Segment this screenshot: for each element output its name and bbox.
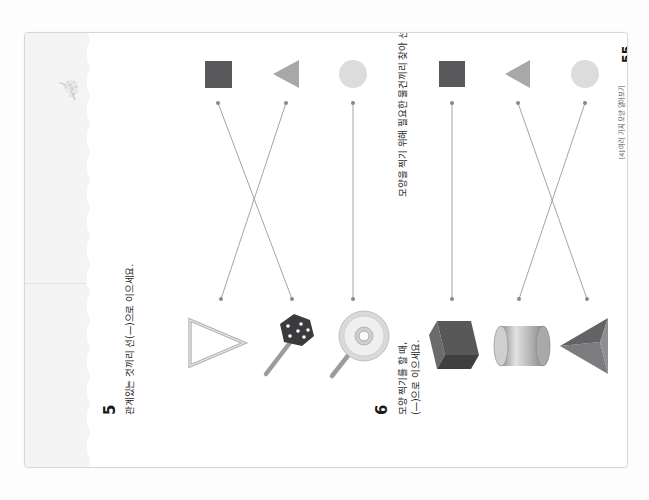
problem-6-instruction-line1: 모양 찍기를 할 때, <box>395 342 409 415</box>
workbook-page-sheet: 5 관계있는 것끼리 선(—)으로 이으세요. <box>24 32 628 468</box>
scan-canvas: 5 관계있는 것끼리 선(—)으로 이으세요. <box>0 0 649 500</box>
scan-smudge-icon <box>53 69 89 109</box>
problem-5-number: 5 <box>101 405 119 415</box>
problem-6-object-triangular-pyramid <box>555 307 627 385</box>
connector-lines-layer <box>87 33 628 468</box>
problem-6-shape-triangle <box>505 60 530 88</box>
problem-6-link-triangle-pyramid[interactable] <box>518 103 587 299</box>
problem-5-shape-circle <box>339 60 367 88</box>
problem-6-link-circle-cylinder[interactable] <box>519 103 585 299</box>
footer-chapter-label: [4] 여러 가지 모양 알아보기 <box>617 85 626 159</box>
problem-6-shape-circle <box>571 60 599 88</box>
problem-6-instruction-line3: (—)으로 이으세요. <box>408 340 422 415</box>
problem-6-object-cube <box>421 311 487 381</box>
problem-5-object-triangle-instrument <box>187 305 255 383</box>
problem-6-number: 6 <box>373 405 391 415</box>
problem-5-shape-triangle <box>273 60 299 88</box>
problem-5-instruction: 관계있는 것끼리 선(—)으로 이으세요. <box>123 264 137 415</box>
problem-5-link-triangle-instrument[interactable] <box>221 103 286 299</box>
problem-5-object-dice <box>257 309 327 381</box>
problem-6-object-cylinder <box>489 311 555 381</box>
page-number: 55 <box>619 46 628 63</box>
problem-5-link-square-dice[interactable] <box>218 103 292 299</box>
problem-5-connector-dots[interactable] <box>216 101 355 301</box>
problem-5-object-compact-disc <box>323 301 397 385</box>
problem-6-instruction-line2: 모양을 찍기 위해 필요한 물건끼리 찾아 선 <box>395 32 409 197</box>
page-crease-line <box>25 283 87 284</box>
problem-6-connector-dots[interactable] <box>450 101 589 301</box>
problem-5-shape-square <box>205 61 232 88</box>
problem-6-shape-square <box>439 61 465 87</box>
printed-page-content: 5 관계있는 것끼리 선(—)으로 이으세요. <box>87 33 628 468</box>
